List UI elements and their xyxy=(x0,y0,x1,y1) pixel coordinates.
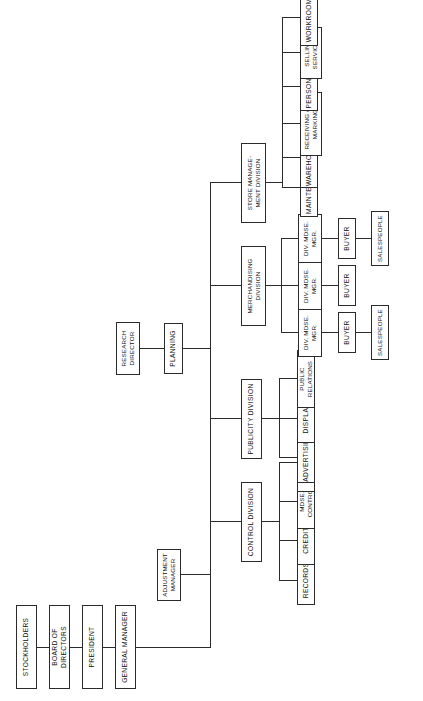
connector-store-workrooms xyxy=(282,17,300,18)
connector-spine-planning xyxy=(183,348,211,349)
node-div-mdse-mgr-2[interactable]: DIV. MDSE. MGR. xyxy=(298,261,322,310)
connector-store-receiving-and-marking xyxy=(282,123,300,124)
connector-control-division-drop xyxy=(262,521,280,522)
connector-spine-merchandising-division xyxy=(211,285,241,286)
org-chart-canvas: STOCKHOLDERS BOARD OF DIRECTORS PRESIDEN… xyxy=(0,0,423,701)
connector-planning-research-director xyxy=(140,348,164,349)
connector-publicity-display xyxy=(279,418,297,419)
node-div-mdse-mgr-1[interactable]: DIV. MDSE. MGR. xyxy=(298,308,322,357)
connector-store-personnel xyxy=(282,86,300,87)
connector-merch-div-mgr-1 xyxy=(281,332,298,333)
connector-control-expense-control xyxy=(279,462,297,463)
connector-publicity-public-relations xyxy=(279,378,297,379)
connector-store-warehousing xyxy=(282,157,300,158)
node-publicity-division[interactable]: PUBLICITY DIVISION xyxy=(241,379,262,459)
spine-main xyxy=(210,182,211,648)
node-store-management-division[interactable]: STORE MANAGE- MENT DIVISION xyxy=(241,143,266,223)
node-salespeople-2[interactable]: SALESPEOPLE xyxy=(371,211,389,266)
connector-store-selling-services xyxy=(282,52,300,53)
connector-spine-control-division xyxy=(211,521,241,522)
connector-buyer-1-salespeople-1 xyxy=(356,332,371,333)
node-buyer-1[interactable]: BUYER xyxy=(338,312,356,353)
connector-merch-div-mgr-2 xyxy=(281,285,298,286)
connector-board-president xyxy=(70,647,82,648)
node-general-manager[interactable]: GENERAL MANAGER xyxy=(115,605,136,689)
node-salespeople-1[interactable]: SALESPEOPLE xyxy=(371,305,389,360)
spine-control-division xyxy=(279,463,280,581)
connector-spine-publicity-division xyxy=(211,418,241,419)
connector-control-credit xyxy=(279,540,297,541)
node-board-of-directors[interactable]: BOARD OF DIRECTORS xyxy=(49,605,70,689)
connector-store-management-drop xyxy=(266,182,283,183)
node-buyer-3[interactable]: BUYER xyxy=(338,218,356,259)
node-merchandising-division[interactable]: MERCHANDISING DIVISION xyxy=(241,246,266,326)
node-research-director[interactable]: RESEARCH DIRECTOR xyxy=(116,322,140,375)
node-president[interactable]: PRESIDENT xyxy=(82,605,103,689)
node-control-division[interactable]: CONTROL DIVISION xyxy=(241,482,262,562)
node-planning[interactable]: PLANNING xyxy=(164,323,183,374)
connector-merchandising-drop xyxy=(266,285,282,286)
node-stockholders[interactable]: STOCKHOLDERS xyxy=(16,605,37,689)
connector-div-mgr-3-buyer-3 xyxy=(322,238,338,239)
spine-store-management-division xyxy=(282,18,283,188)
connector-merch-div-mgr-3 xyxy=(281,238,298,239)
node-public-relations[interactable]: PUBLIC RELATIONS xyxy=(297,350,315,408)
connector-store-maintenance xyxy=(282,187,300,188)
node-workrooms[interactable]: WORKROOMS xyxy=(300,0,318,46)
connector-president-general-manager xyxy=(103,647,115,648)
connector-spine-adjustment-manager xyxy=(180,574,211,575)
connector-div-mgr-1-buyer-1 xyxy=(322,332,338,333)
connector-div-mgr-2-buyer-2 xyxy=(322,285,338,286)
connector-publicity-division-drop xyxy=(262,418,280,419)
connector-buyer-3-salespeople-2 xyxy=(356,238,371,239)
org-chart-rotated-group: STOCKHOLDERS BOARD OF DIRECTORS PRESIDEN… xyxy=(0,0,423,701)
connector-control-mdse-control xyxy=(279,501,297,502)
connector-gm-drop xyxy=(136,647,211,648)
node-div-mdse-mgr-3[interactable]: DIV. MDSE. MGR. xyxy=(298,214,322,263)
connector-publicity-advertising xyxy=(279,457,297,458)
node-buyer-2[interactable]: BUYER xyxy=(338,265,356,306)
node-adjustment-manager[interactable]: ADJUSTMENT MANAGER xyxy=(157,549,181,601)
connector-control-records xyxy=(279,580,297,581)
connector-spine-store-management-division xyxy=(211,182,241,183)
connector-stockholders-board xyxy=(37,647,49,648)
